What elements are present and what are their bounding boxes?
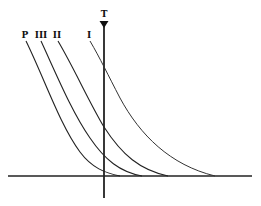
curve-label-ii: II <box>53 30 61 40</box>
diagram-canvas: T P III II I <box>0 0 261 206</box>
axis-top-label: T <box>101 9 108 19</box>
curve-i <box>90 41 215 176</box>
curve-ii <box>58 41 168 176</box>
curve-label-iii: III <box>35 30 48 40</box>
axis-marker-icon <box>100 21 109 28</box>
curve-label-i: I <box>87 30 91 40</box>
curve-label-p: P <box>22 30 29 40</box>
